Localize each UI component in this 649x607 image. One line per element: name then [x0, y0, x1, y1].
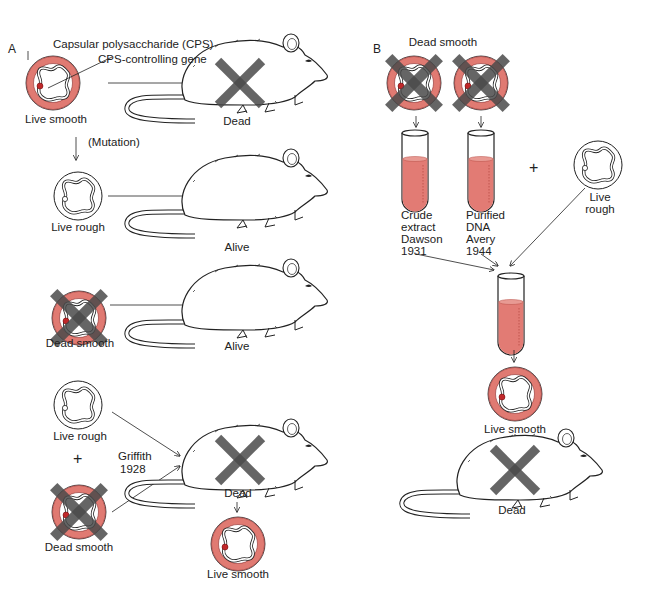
live-rough-bacterium-a4	[54, 381, 102, 429]
test-tube-crude-extract	[402, 130, 428, 212]
live-rough-line2: rough	[585, 203, 614, 215]
tube-dna-line4: 1944	[466, 245, 505, 257]
test-tube-purified-dna	[468, 130, 494, 212]
label-live-smooth-a4: Live smooth	[207, 568, 269, 581]
label-mutation: (Mutation)	[88, 136, 140, 149]
tube-dna-line3: Avery	[466, 233, 505, 245]
label-live-rough-a4: Live rough	[53, 430, 107, 443]
label-live-rough-a2: Live rough	[51, 221, 105, 234]
mouse-alive-a2	[127, 149, 328, 236]
live-rough-bacterium-a2	[54, 172, 102, 220]
panel-letter-b: B	[373, 42, 381, 56]
tube-crude-line1: Crude	[401, 209, 443, 221]
dead-smooth-bacterium-b1	[387, 56, 441, 110]
gene-annotation: CPS-controlling gene	[98, 53, 207, 66]
live-smooth-bacterium-a1	[26, 56, 80, 110]
tube-crude-line2: extract	[401, 221, 443, 233]
tube-dna-line2: DNA	[466, 221, 505, 233]
live-rough-line1: Live	[585, 191, 614, 203]
label-dead-smooth-a4: Dead smooth	[45, 541, 113, 554]
label-dead-smooth-a3: Dead smooth	[46, 337, 114, 350]
live-rough-bacterium-b	[574, 141, 622, 189]
label-dead-smooth-b: Dead smooth	[409, 36, 477, 49]
tube-crude-line4: 1931	[401, 245, 443, 257]
dead-smooth-bacterium-b2	[454, 56, 508, 110]
tube-crude-line3: Dawson	[401, 233, 443, 245]
live-smooth-bacterium-b-result	[488, 367, 542, 421]
cps-annotation: Capsular polysaccharide (CPS)	[53, 38, 213, 51]
label-griffith: Griffith	[118, 450, 152, 463]
label-alive-a3: Alive	[225, 340, 250, 353]
live-smooth-bacterium-a4-recovered	[211, 517, 265, 571]
label-tube-dna: Purified DNA Avery 1944	[466, 209, 505, 257]
panel-letter-a: A	[8, 42, 16, 56]
diagram-canvas	[0, 0, 649, 607]
label-live-smooth-b: Live smooth	[484, 423, 546, 436]
mouse-dead-b	[402, 429, 603, 516]
dead-smooth-bacterium-a4	[52, 485, 106, 539]
label-griffith-year: 1928	[120, 463, 146, 476]
label-live-rough-b: Live rough	[585, 191, 614, 215]
label-dead-a4: Dead	[224, 487, 252, 500]
label-dead-b: Dead	[498, 504, 526, 517]
label-dead-a1: Dead	[223, 115, 251, 128]
label-tube-crude: Crude extract Dawson 1931	[401, 209, 443, 257]
label-alive-a2: Alive	[225, 241, 250, 254]
mouse-alive-a3	[127, 259, 328, 346]
plus-sign-a: +	[73, 452, 82, 465]
tube-dna-line1: Purified	[466, 209, 505, 221]
plus-sign-b: +	[529, 161, 538, 174]
test-tube-mixture	[498, 273, 524, 355]
label-live-smooth-a1: Live smooth	[25, 113, 87, 126]
